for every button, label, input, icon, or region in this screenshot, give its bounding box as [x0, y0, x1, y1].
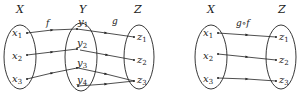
- function-composition-diagram: X Y Z f g x1 x2 x3 y1 y2 y3 y4 z1 z2 z3: [0, 0, 302, 101]
- element-x3-right: x3: [203, 73, 213, 86]
- set-label-y: Y: [79, 3, 88, 16]
- element-y2: y2: [76, 37, 87, 50]
- element-z1: z1: [136, 31, 147, 44]
- right-diagram: X Z g∘f x1 x2 x3 z1 z2 z3: [195, 3, 296, 89]
- function-label-gof: g∘f: [236, 18, 251, 28]
- element-x2-right: x2: [203, 50, 213, 63]
- element-z3-right: z3: [278, 74, 289, 87]
- element-z2: z2: [136, 54, 147, 67]
- set-label-x: X: [15, 3, 25, 16]
- element-z2-right: z2: [278, 54, 289, 67]
- element-x2: x2: [12, 50, 22, 63]
- left-diagram: X Y Z f g x1 x2 x3 y1 y2 y3 y4 z1 z2 z3: [4, 3, 154, 91]
- element-y1: y1: [77, 16, 88, 29]
- function-label-f: f: [45, 18, 51, 28]
- set-label-x-right: X: [206, 3, 216, 16]
- set-label-z-right: Z: [277, 3, 286, 16]
- element-x3: x3: [12, 73, 22, 86]
- function-g-arrows: [77, 29, 134, 86]
- element-x1-right: x1: [203, 27, 213, 40]
- element-z1-right: z1: [278, 31, 289, 44]
- function-label-g: g: [112, 16, 118, 26]
- element-x1: x1: [12, 27, 22, 40]
- element-z3: z3: [136, 74, 147, 87]
- set-label-z: Z: [133, 3, 142, 16]
